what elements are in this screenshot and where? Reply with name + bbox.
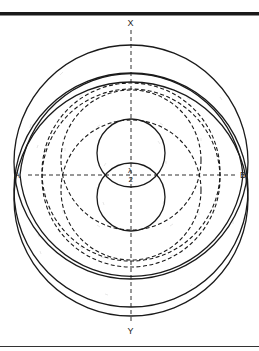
top-rule xyxy=(0,12,259,16)
arrow-marker xyxy=(103,202,104,205)
arrow-marker xyxy=(220,97,222,100)
arrow-marker xyxy=(97,125,100,127)
label-lambda: λ xyxy=(128,166,132,175)
arrow-marker xyxy=(158,141,160,144)
arrow-marker xyxy=(101,257,104,258)
arrow-marker xyxy=(105,294,108,295)
dashed-inner-upper-circle xyxy=(61,120,201,260)
field-line-diagram: X Y A B λ 2 xyxy=(0,0,259,351)
label-x: X xyxy=(128,18,134,28)
label-b: B xyxy=(240,170,246,180)
arrow-marker xyxy=(160,123,163,125)
arrow-marker xyxy=(40,251,41,254)
arrow-marker xyxy=(60,72,63,75)
arrow-marker xyxy=(79,95,82,97)
arrow-marker xyxy=(30,124,31,128)
label-two: 2 xyxy=(129,175,134,184)
arrow-marker xyxy=(170,224,173,226)
arrow-marker xyxy=(190,284,192,286)
arrow-marker xyxy=(170,255,173,256)
arrow-marker xyxy=(97,225,100,227)
arrow-marker xyxy=(37,145,38,148)
label-a: A xyxy=(14,170,20,180)
bottom-rule xyxy=(0,346,259,347)
arrow-marker xyxy=(104,163,106,166)
label-y: Y xyxy=(128,326,134,336)
